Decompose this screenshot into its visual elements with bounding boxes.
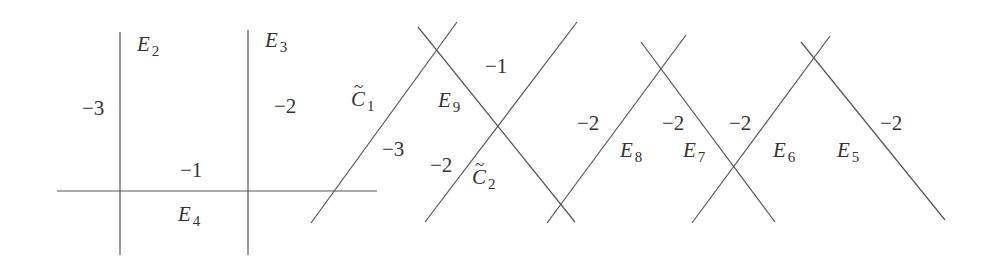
curve-label-name: E [837,138,850,162]
curve-label-subscript: 9 [453,99,461,115]
curve-label-subscript: 2 [152,43,160,59]
curve-label-e5: E5 [837,140,859,165]
curve-configuration-diagram: E2E3E4C1E9C2E8E7E6E5 −3−2−1−1−3−2−2−2−2−… [0,0,991,258]
self-intersection-number: −2 [662,113,684,134]
curve-label-subscript: 3 [280,39,288,55]
self-intersection-number: −2 [729,113,751,134]
curve-label-c2: C2 [472,167,496,192]
curve-line-c1 [311,22,457,223]
curve-line-e5 [801,42,945,220]
curve-label-e6: E6 [773,140,795,165]
self-intersection-number: −1 [485,56,507,77]
self-intersection-number: −2 [274,96,296,117]
curve-label-name: E [773,138,786,162]
curve-label-subscript: 5 [852,149,860,165]
curve-label-e2: E2 [137,34,159,59]
curve-label-subscript: 4 [193,213,201,229]
curve-label-subscript: 1 [367,98,375,114]
curve-label-e4: E4 [178,204,200,229]
curve-label-subscript: 7 [698,149,706,165]
curve-label-name: C [472,167,486,188]
self-intersection-number: −3 [382,139,404,160]
curve-label-name: E [265,28,278,52]
self-intersection-number: −2 [880,113,902,134]
curve-label-e7: E7 [683,140,705,165]
curve-label-name: E [178,202,191,226]
curve-label-c1: C1 [351,89,375,114]
self-intersection-number: −3 [82,98,104,119]
curve-line-e6 [692,36,830,223]
curve-line-c2 [425,22,577,222]
self-intersection-number: −2 [577,113,599,134]
curve-label-name: E [683,138,696,162]
curve-label-e9: E9 [438,90,460,115]
curve-label-name: E [620,138,633,162]
self-intersection-number: −2 [430,155,452,176]
curve-label-subscript: 6 [788,149,796,165]
curve-label-subscript: 8 [635,149,643,165]
curve-label-name: E [438,88,451,112]
curve-label-e3: E3 [265,30,287,55]
curve-label-e8: E8 [620,140,642,165]
curve-label-name: C [351,89,365,110]
self-intersection-number: −1 [180,160,202,181]
curve-label-subscript: 2 [488,176,496,192]
curve-label-name: E [137,32,150,56]
